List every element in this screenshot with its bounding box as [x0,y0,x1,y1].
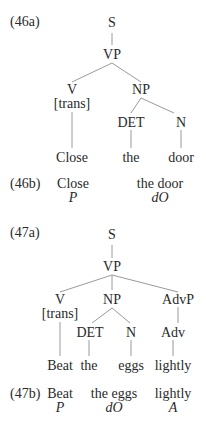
leaf-verb: Beat [47,359,73,373]
leaf-adv: lightly [155,359,192,373]
example-label-47a: (47a) [10,226,40,240]
gloss-word: Close [57,177,89,191]
example-label-46a: (46a) [10,15,40,29]
leaf-verb: Close [56,151,88,165]
node-det: DET [117,116,144,130]
gloss-word: lightly [155,387,192,401]
gloss-role: P [69,191,78,205]
node-v-feature: [trans] [42,307,79,321]
node-n: N [126,326,136,340]
node-v-feature: [trans] [54,97,91,111]
gloss-word: the eggs [91,387,137,401]
node-det: DET [76,326,103,340]
leaf-det: the [80,359,97,373]
gloss-role: dO [151,191,168,205]
node-np: NP [103,293,121,307]
node-n: N [176,116,186,130]
node-v: V [55,293,65,307]
gloss-word: Beat [47,387,73,401]
node-adv: Adv [161,326,185,340]
leaf-noun: door [168,151,194,165]
leaf-noun: eggs [118,359,144,373]
node-vp: VP [103,260,121,274]
gloss-word: the door [137,177,183,191]
node-vp: VP [103,48,121,62]
example-label-46b: (46b) [10,177,40,191]
node-advp: AdvP [162,293,194,307]
gloss-role: A [169,401,178,415]
node-np: NP [132,83,150,97]
gloss-role: P [56,401,65,415]
leaf-det: the [122,151,139,165]
gloss-role: dO [105,401,122,415]
node-v: V [67,83,77,97]
example-label-47b: (47b) [10,387,40,401]
node-s: S [108,16,116,30]
node-s: S [108,228,116,242]
